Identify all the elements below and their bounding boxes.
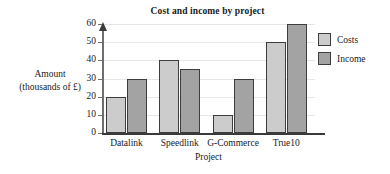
x-category-label: True10 [252, 138, 321, 148]
y-axis-line [102, 24, 104, 133]
x-axis-label: Project [102, 152, 315, 162]
y-tick-label: 50 [76, 37, 96, 46]
y-axis-arrow-icon [99, 22, 107, 31]
legend-swatch [318, 33, 331, 46]
bar [159, 60, 179, 133]
y-tick-label: 0 [76, 128, 96, 137]
legend-swatch [318, 52, 331, 65]
bar [266, 42, 286, 133]
gridline [102, 24, 315, 25]
bar [287, 24, 307, 133]
y-tick-label: 40 [76, 55, 96, 64]
legend-item: Costs [318, 30, 366, 49]
bar [180, 69, 200, 133]
plot-area: 0102030405060 DatalinkSpeedlinkG-Commerc… [102, 18, 315, 133]
bar [234, 79, 254, 134]
legend-label: Income [337, 54, 366, 64]
bar [127, 79, 147, 134]
x-axis-line [102, 133, 325, 135]
bar [106, 97, 126, 133]
chart-legend: CostsIncome [318, 30, 366, 68]
y-tick-label: 60 [76, 19, 96, 28]
y-tick-label: 30 [76, 74, 96, 83]
bar-chart: Cost and income by project Amount (thous… [0, 0, 390, 174]
y-tick-label: 10 [76, 110, 96, 119]
legend-label: Costs [337, 35, 358, 45]
y-tick-label: 20 [76, 92, 96, 101]
legend-item: Income [318, 49, 366, 68]
chart-title: Cost and income by project [100, 6, 315, 16]
bar [213, 115, 233, 133]
